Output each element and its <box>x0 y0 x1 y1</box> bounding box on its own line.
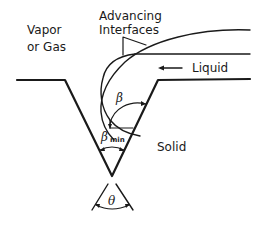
theta-arc-arrowhead-left <box>95 204 100 208</box>
vapor-label: Vapor <box>27 23 62 37</box>
solid-surface-with-groove <box>17 79 250 176</box>
theta-symbol: θ <box>108 194 116 208</box>
wetting-groove-diagram: Vapor or Gas Advancing Interfaces Liquid… <box>0 0 267 232</box>
gas-label: or Gas <box>27 40 66 54</box>
solid-label: Solid <box>157 140 186 154</box>
theta-left-ray <box>92 184 108 210</box>
interfaces-label: Interfaces <box>99 23 159 37</box>
beta-min-subscript: min <box>110 136 125 144</box>
theta-arc-arrowhead-right <box>125 204 130 208</box>
advancing-interfaces-pointer <box>123 37 146 55</box>
theta-right-ray <box>116 184 133 210</box>
liquid-label: Liquid <box>192 61 228 75</box>
beta-symbol: β <box>115 91 123 105</box>
beta-angle-arc <box>110 103 146 124</box>
advancing-label: Advancing <box>99 9 162 23</box>
liquid-direction-arrowhead <box>158 66 164 71</box>
beta-min-symbol: β <box>100 130 108 144</box>
